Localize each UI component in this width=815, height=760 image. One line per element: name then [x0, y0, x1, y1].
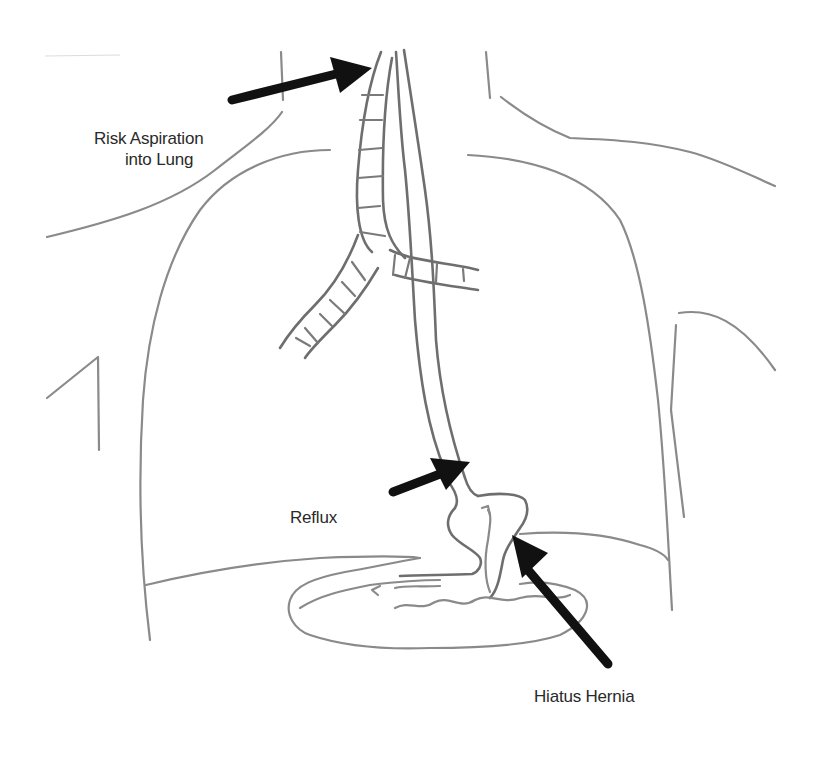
reflux-arrow	[393, 458, 470, 492]
right-shoulder-outline	[501, 97, 775, 186]
stomach-inner-fold	[300, 580, 440, 608]
right-bronchus-upper	[390, 250, 478, 270]
stomach-flow-line	[395, 586, 440, 588]
neck-right-outline	[486, 52, 490, 98]
aspiration-label: Risk Aspiration into Lung	[94, 128, 203, 170]
oesophagus-right-wall	[404, 50, 478, 496]
neck-left-outline	[281, 52, 283, 100]
anatomy-illustration	[0, 0, 815, 760]
herniated-stomach-left	[400, 480, 481, 576]
left-bronchus-outer	[280, 235, 358, 348]
aspiration-label-line2: into Lung	[94, 149, 203, 170]
hiatus-hernia-arrow	[512, 535, 608, 664]
diagram-canvas: Risk Aspiration into Lung Reflux Hiatus …	[0, 0, 815, 760]
aspiration-arrow	[232, 57, 372, 100]
stomach-flow-arrow	[372, 586, 380, 595]
right-lung-outline	[468, 155, 672, 610]
reflux-flow-curve	[486, 510, 491, 592]
aspiration-label-line1: Risk Aspiration	[94, 128, 203, 149]
reflux-label: Reflux	[290, 507, 337, 528]
stomach-rugae	[395, 595, 570, 608]
hiatus-hernia-label: Hiatus Hernia	[534, 686, 634, 707]
trachea-left-wall	[357, 52, 381, 252]
reflux-flow-arrowhead	[482, 506, 490, 515]
left-arm-outline	[47, 357, 99, 450]
oesophagus-left-wall	[396, 52, 447, 480]
right-arm-inner-outline	[671, 325, 684, 517]
scan-artifact	[45, 55, 120, 56]
right-arm-outer-outline	[679, 312, 775, 370]
trachea-right-wall	[383, 58, 405, 258]
diaphragm-left	[146, 557, 420, 586]
stomach-outer	[289, 558, 587, 648]
trachea-rings	[358, 95, 385, 236]
